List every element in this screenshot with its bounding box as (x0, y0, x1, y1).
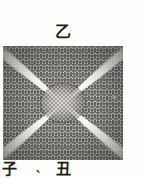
figure-bottom-caption-left: 子 (2, 162, 17, 177)
paper-speck (112, 96, 116, 99)
figure-bottom-caption-separator: 、 (36, 164, 46, 174)
figure-bottom-caption-right: 丑 (56, 162, 71, 177)
stippled-square-figure (3, 46, 123, 160)
star-center-speckle (40, 83, 86, 123)
top-edge-scuff (3, 46, 123, 50)
figure-bottom-caption-row: 子 、 丑 (0, 162, 126, 178)
figure-page: 乙 子 、 丑 (0, 0, 143, 178)
figure-top-caption: 乙 (0, 24, 126, 40)
